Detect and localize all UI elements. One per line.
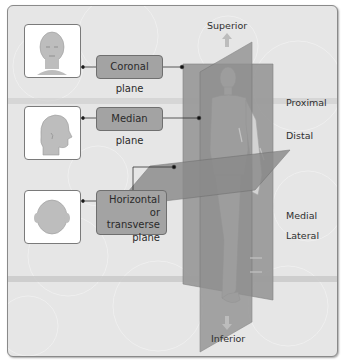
horizontal-plane-label: Horizontal or transverse plane bbox=[96, 190, 167, 235]
median-plane bbox=[200, 42, 252, 352]
horizontal-thumbnail bbox=[24, 190, 81, 244]
lateral-label: Lateral bbox=[286, 230, 319, 241]
coronal-thumbnail bbox=[24, 24, 81, 78]
distal-label: Distal bbox=[286, 130, 313, 141]
superior-label: Superior bbox=[207, 20, 247, 31]
head-top-view-icon bbox=[25, 191, 80, 243]
inferior-label: Inferior bbox=[211, 333, 245, 344]
median-thumbnail bbox=[24, 106, 81, 160]
superior-arrow-icon bbox=[222, 33, 232, 47]
proximal-label: Proximal bbox=[286, 97, 327, 108]
median-plane-label: Median plane bbox=[96, 107, 163, 131]
horizontal-plane-label-line: plane bbox=[97, 232, 160, 245]
face-front-view-icon bbox=[25, 25, 80, 77]
coronal-plane-label: Coronal plane bbox=[96, 55, 163, 79]
horizontal-plane-label-line: Horizontal or bbox=[97, 194, 160, 219]
head-side-view-icon bbox=[25, 107, 80, 159]
median-plane-label-text: Median plane bbox=[111, 113, 147, 146]
coronal-plane-label-text: Coronal plane bbox=[110, 61, 148, 94]
horizontal-plane-label-line: transverse bbox=[97, 219, 160, 232]
medial-label: Medial bbox=[286, 210, 317, 221]
